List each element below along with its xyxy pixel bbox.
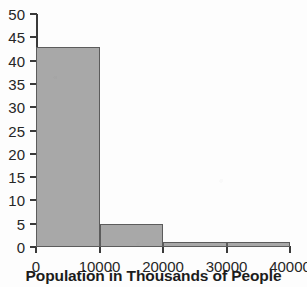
y-tick-label: 5 — [17, 216, 25, 231]
y-tick: 45 — [30, 36, 37, 38]
x-tick: 0 — [35, 246, 37, 253]
plot-area: 05101520253035404550 0100002000030000400… — [36, 14, 290, 247]
y-tick-label: 20 — [8, 146, 25, 161]
x-tick: 30000 — [226, 246, 228, 253]
histogram-bar — [100, 224, 164, 247]
y-tick-label: 10 — [8, 193, 25, 208]
x-tick: 40000 — [289, 246, 291, 253]
histogram-figure: 05101520253035404550 0100002000030000400… — [0, 0, 307, 287]
x-tick: 10000 — [99, 246, 101, 253]
y-tick-label: 25 — [8, 123, 25, 138]
y-tick-label: 45 — [8, 30, 25, 45]
y-tick-label: 15 — [8, 170, 25, 185]
y-tick-label: 30 — [8, 100, 25, 115]
y-tick-label: 0 — [17, 240, 25, 255]
y-tick-label: 35 — [8, 76, 25, 91]
x-tick: 20000 — [162, 246, 164, 253]
histogram-bar — [163, 242, 227, 247]
y-tick-label: 40 — [8, 53, 25, 68]
x-axis-title: Population in Thousands of People — [0, 267, 307, 285]
histogram-bar — [36, 47, 100, 247]
y-tick: 50 — [30, 13, 37, 15]
y-tick-label: 50 — [8, 7, 25, 22]
histogram-bar — [227, 242, 291, 247]
